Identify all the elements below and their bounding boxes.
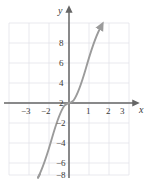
x-tick-neg3: −3: [21, 107, 31, 116]
y-tick-neg2: −2: [56, 119, 66, 128]
axis-lines: [4, 12, 133, 178]
y-tick-neg8: −8: [56, 171, 66, 180]
y-tick-neg6: −6: [56, 159, 66, 168]
y-tick-4: 4: [59, 79, 64, 88]
graph-figure: y x 8 6 4 2 −2 −4 −6 −8 −3 −2 1 2 3: [0, 0, 150, 181]
x-tick-3: 3: [120, 107, 125, 116]
y-tick-2: 2: [59, 99, 64, 108]
x-tick-neg2: −2: [41, 107, 51, 116]
x-axis-label: x: [139, 105, 143, 115]
y-tick-8: 8: [59, 39, 64, 48]
x-tick-1: 1: [86, 107, 91, 116]
y-axis-label: y: [58, 6, 62, 16]
y-tick-neg4: −4: [56, 139, 66, 148]
y-tick-6: 6: [59, 59, 64, 68]
cubic-plot: [0, 0, 150, 181]
x-tick-2: 2: [106, 107, 111, 116]
